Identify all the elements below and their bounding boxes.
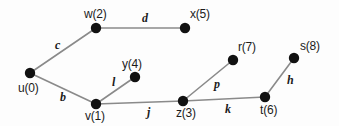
graph-edge-label-k: k	[225, 103, 231, 115]
graph-node-u[interactable]	[25, 68, 35, 78]
graph-edge-label-h: h	[287, 74, 294, 86]
graph-node-z[interactable]	[178, 96, 188, 106]
graph-node-x[interactable]	[180, 23, 190, 33]
graph-edge-label-p: p	[214, 78, 220, 90]
graph-edge-k[interactable]	[183, 97, 265, 101]
graph-node-s[interactable]	[289, 53, 299, 63]
graph-edge-c[interactable]	[30, 28, 96, 73]
graph-node-w[interactable]	[91, 23, 101, 33]
graph-edge-label-b: b	[60, 91, 66, 103]
graph-edge-label-j: j	[147, 106, 150, 118]
graph-node-label-y: y(4)	[122, 58, 142, 70]
graph-edge-label-c: c	[55, 39, 60, 51]
graph-node-label-z: z(3)	[176, 107, 196, 119]
graph-node-t[interactable]	[260, 92, 270, 102]
graph-node-label-t: t(6)	[260, 104, 277, 116]
graph-edge-l[interactable]	[96, 77, 135, 104]
graph-edge-j[interactable]	[96, 101, 183, 104]
graph-node-r[interactable]	[228, 55, 238, 65]
graph-node-label-u: u(0)	[18, 82, 39, 94]
graph-edge-label-l: l	[112, 76, 115, 88]
graph-node-label-s: s(8)	[300, 40, 320, 52]
graph-edge-label-d: d	[142, 12, 148, 24]
graph-node-y[interactable]	[130, 72, 140, 82]
graph-node-label-w: w(2)	[84, 8, 107, 20]
graph-diagram-canvas: u(0)w(2)x(5)y(4)v(1)z(3)r(7)t(6)s(8)cdbl…	[0, 0, 339, 126]
graph-svg	[0, 0, 339, 126]
graph-node-v[interactable]	[91, 99, 101, 109]
graph-node-label-x: x(5)	[190, 8, 210, 20]
graph-node-label-v: v(1)	[85, 110, 105, 122]
graph-node-label-r: r(7)	[238, 41, 256, 53]
graph-edge-p[interactable]	[183, 60, 233, 101]
